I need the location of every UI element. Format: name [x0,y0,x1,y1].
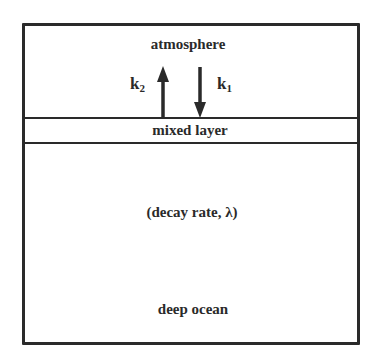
down-arrow-icon [194,67,206,118]
flux-arrows [0,0,375,362]
ocean-box-model-diagram: atmosphere mixed layer (decay rate, λ) d… [0,0,375,362]
up-arrow-icon [157,66,169,118]
